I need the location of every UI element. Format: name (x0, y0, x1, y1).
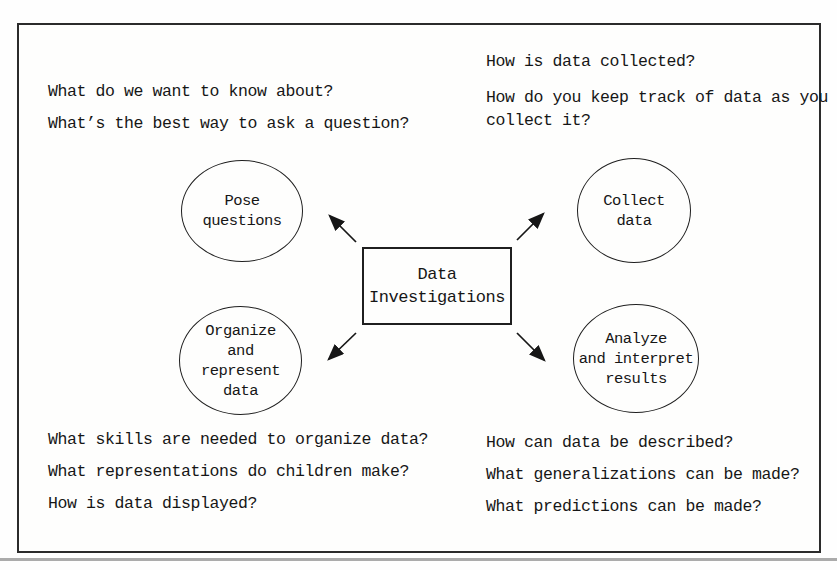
node-organize-represent-data: Organize and represent data (179, 306, 302, 415)
scanned-page: What do we want to know about? What’s th… (0, 0, 837, 570)
node-label-line: represent (201, 361, 280, 381)
question-text: What representations do children make? (48, 460, 448, 483)
question-text: What generalizations can be made? (486, 463, 837, 486)
node-label-line: questions (202, 211, 281, 231)
node-label-line: and (227, 341, 253, 361)
node-label-line: Analyze (605, 329, 667, 349)
node-label-line: data (616, 211, 651, 231)
node-label-line: data (223, 381, 258, 401)
node-collect-data: Collect data (577, 158, 691, 263)
question-text: What do we want to know about? (48, 80, 448, 103)
node-label-line: Collect (603, 191, 665, 211)
node-label-line: results (605, 369, 667, 389)
page-scan-edge (0, 558, 837, 561)
questions-pose: What do we want to know about? What’s th… (48, 80, 448, 144)
question-text: What predictions can be made? (486, 495, 837, 518)
question-text: How can data be described? (486, 431, 837, 454)
questions-organize: What skills are needed to organize data?… (48, 428, 448, 524)
questions-collect: How is data collected? How do you keep t… (486, 50, 837, 141)
questions-analyze: How can data be described? What generali… (486, 431, 837, 527)
question-text: What’s the best way to ask a question? (48, 112, 448, 135)
question-text: How is data displayed? (48, 492, 448, 515)
question-text: How is data collected? (486, 50, 837, 73)
node-analyze-interpret-results: Analyze and interpret results (573, 304, 699, 413)
node-label-line: and interpret (579, 349, 693, 369)
question-text: What skills are needed to organize data? (48, 428, 448, 451)
node-label-line: Organize (205, 321, 275, 341)
center-label-line: Data (418, 263, 457, 286)
center-node-data-investigations: Data Investigations (362, 247, 512, 325)
node-pose-questions: Pose questions (181, 160, 303, 262)
question-text: How do you keep track of data as you col… (486, 86, 837, 132)
center-label-line: Investigations (369, 286, 505, 309)
node-label-line: Pose (224, 191, 259, 211)
